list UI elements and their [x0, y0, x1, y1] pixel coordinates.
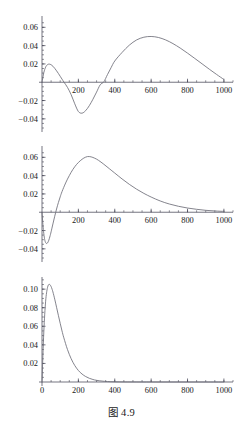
x-tick-label: 400 — [108, 86, 121, 95]
x-tick-label: 0 — [40, 386, 44, 395]
y-tick-label: 0.04 — [23, 341, 38, 350]
x-tick-label: 800 — [181, 216, 194, 225]
data-curve — [42, 36, 224, 113]
y-tick-label: 0.06 — [23, 153, 38, 162]
chart-panel-bottom: 020040060080010000.020.040.060.080.10 — [0, 277, 243, 400]
y-tick-label: 0.02 — [23, 190, 38, 199]
chart-middle-svg: 2004006008001000−0.04−0.020.020.040.06 — [0, 140, 243, 280]
y-tick-label: 0.06 — [23, 322, 38, 331]
y-tick-label: 0.04 — [23, 172, 38, 181]
x-tick-label: 800 — [181, 86, 194, 95]
y-tick-label: −0.02 — [19, 227, 38, 236]
data-curve — [42, 284, 224, 382]
x-tick-label: 600 — [145, 386, 158, 395]
x-tick-label: 400 — [108, 386, 121, 395]
y-tick-label: 0.02 — [23, 359, 38, 368]
figure-4-9: 2004006008001000−0.04−0.020.020.040.06 2… — [0, 0, 243, 435]
y-tick-label: −0.02 — [19, 97, 38, 106]
y-tick-label: 0.10 — [23, 285, 38, 294]
x-tick-label: 600 — [145, 86, 158, 95]
x-tick-label: 200 — [72, 86, 85, 95]
y-tick-label: −0.04 — [19, 245, 39, 254]
x-tick-label: 200 — [72, 386, 85, 395]
x-tick-label: 1000 — [216, 386, 233, 395]
x-tick-label: 1000 — [216, 86, 233, 95]
figure-caption: 图 4.9 — [0, 404, 243, 419]
y-tick-label: 0.06 — [23, 23, 38, 32]
x-tick-label: 200 — [72, 216, 85, 225]
chart-panel-top: 2004006008001000−0.04−0.020.020.040.06 — [0, 0, 243, 140]
y-tick-label: 0.04 — [23, 42, 38, 51]
x-tick-label: 400 — [108, 216, 121, 225]
x-tick-label: 600 — [145, 216, 158, 225]
x-tick-label: 800 — [181, 386, 194, 395]
y-tick-label: 0.02 — [23, 60, 38, 69]
y-tick-label: −0.04 — [19, 115, 39, 124]
chart-panel-middle: 2004006008001000−0.04−0.020.020.040.06 — [0, 140, 243, 280]
x-tick-label: 1000 — [216, 216, 233, 225]
y-tick-label: 0.08 — [23, 304, 38, 313]
chart-top-svg: 2004006008001000−0.04−0.020.020.040.06 — [0, 0, 243, 140]
data-curve — [42, 157, 224, 244]
chart-bottom-svg: 020040060080010000.020.040.060.080.10 — [0, 277, 243, 400]
